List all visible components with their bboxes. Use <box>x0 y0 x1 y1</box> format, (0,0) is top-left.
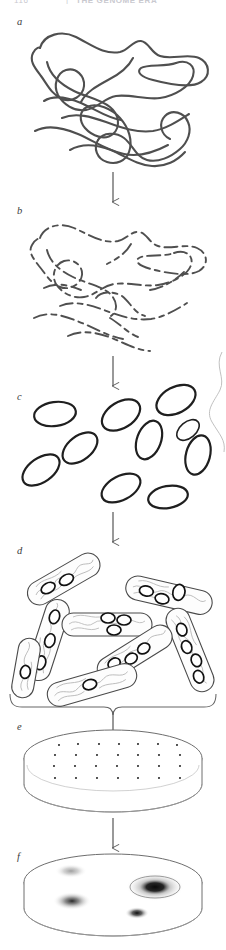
panel-label-c: c <box>17 392 22 403</box>
panel-e-artwork <box>24 730 202 812</box>
panel-c-artwork <box>17 379 215 512</box>
colony-dot <box>118 743 120 745</box>
page-edge-artifact <box>209 352 224 452</box>
bacterial-cell <box>23 549 104 610</box>
colony-dot <box>54 754 56 756</box>
plasmid <box>173 416 203 445</box>
colony-dot <box>77 743 79 745</box>
colony-dot <box>75 777 77 779</box>
colony-dot <box>117 754 119 756</box>
colony-dot <box>179 754 181 756</box>
bacterial-cell <box>62 613 152 636</box>
colony-dot <box>137 754 139 756</box>
colony-dot <box>58 744 60 746</box>
colony-dot <box>116 765 118 767</box>
colony-dot <box>137 777 139 779</box>
colony-dot <box>179 765 181 767</box>
panel-label-a: a <box>17 17 22 28</box>
colony-dot <box>137 743 139 745</box>
cloning-workflow-figure: 116 | THE GENOME ERA <box>0 0 226 950</box>
colony-dot <box>117 777 119 779</box>
colony-dot <box>96 777 98 779</box>
plasmid <box>146 483 189 512</box>
panel-a-artwork <box>32 34 208 166</box>
colony-dot <box>96 754 98 756</box>
panel-d-artwork <box>10 549 218 710</box>
plasmid <box>33 399 78 429</box>
plasmid <box>151 379 200 422</box>
colony-dot <box>75 754 77 756</box>
colony-signal-medium <box>53 892 91 910</box>
colony-dot <box>95 765 97 767</box>
colony-dot <box>176 744 178 746</box>
panel-label-b: b <box>17 206 22 217</box>
colony-dot <box>158 777 160 779</box>
colony-dot <box>98 743 100 745</box>
colony-dot <box>179 777 181 779</box>
plasmid <box>97 468 145 509</box>
colony-signal-faint <box>55 864 87 878</box>
colony-signal-small <box>125 907 149 919</box>
bacterial-cell <box>44 661 139 709</box>
colony-dot <box>158 765 160 767</box>
colony-dot <box>157 743 159 745</box>
colony-dot <box>53 765 55 767</box>
panel-label-e: e <box>17 722 22 733</box>
colony-dot <box>74 765 76 767</box>
plasmid <box>96 393 145 437</box>
bacterial-cell <box>162 605 217 696</box>
panel-f-artwork <box>24 854 202 936</box>
plasmid <box>131 417 167 463</box>
colony-signal-strong <box>126 873 184 901</box>
panel-label-f: f <box>17 852 20 863</box>
plasmid <box>57 426 103 470</box>
panel-b-artwork <box>31 225 206 351</box>
figure-artwork <box>0 0 226 950</box>
plasmid <box>17 448 65 492</box>
bacterial-cell <box>123 573 214 617</box>
colony-dot <box>54 777 56 779</box>
panel-label-d: d <box>17 546 22 557</box>
bacterial-cell <box>10 637 42 700</box>
colony-dot <box>137 765 139 767</box>
colony-dot <box>158 754 160 756</box>
